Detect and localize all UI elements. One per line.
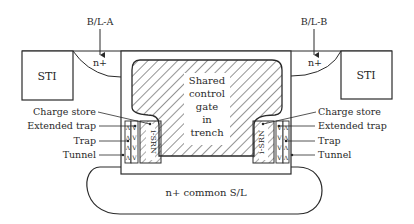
svg-text:Λ: Λ <box>125 124 131 131</box>
label-tunnel-right: Tunnel <box>318 149 351 160</box>
svg-text:V: V <box>131 144 137 151</box>
sti-left: STI <box>22 51 73 100</box>
bitline-b: B/L-B <box>301 16 328 55</box>
svg-text:Λ: Λ <box>125 154 131 161</box>
bitline-b-label: B/L-B <box>301 16 328 27</box>
nplus-left-label: n+ <box>93 57 107 68</box>
isrn-left-label: i-SRN <box>149 130 158 154</box>
svg-text:V: V <box>131 124 137 131</box>
common-sl-label: n+ common S/L <box>165 187 246 198</box>
svg-text:Λ: Λ <box>283 144 289 151</box>
label-charge-store-left: Charge store <box>33 106 96 117</box>
svg-text:Λ: Λ <box>283 154 289 161</box>
label-trap-left: Trap <box>73 135 96 146</box>
svg-text:Λ: Λ <box>125 144 131 151</box>
svg-text:V: V <box>276 124 282 131</box>
gate-label-line3: gate <box>196 101 218 112</box>
bitline-a: B/L-A <box>87 16 114 55</box>
label-extended-trap-left: Extended trap <box>27 120 96 131</box>
svg-text:Λ: Λ <box>125 134 131 141</box>
nplus-right-label: n+ <box>308 57 322 68</box>
gate-label-line5: trench <box>190 127 224 138</box>
svg-text:Λ: Λ <box>283 124 289 131</box>
label-charge-store-right: Charge store <box>318 106 381 117</box>
sti-right-label: STI <box>356 69 375 82</box>
label-extended-trap-right: Extended trap <box>318 120 387 131</box>
gate-label-line4: in <box>202 114 212 125</box>
isrn-right-label: i-SRN <box>257 130 266 154</box>
right-storage-stack: i-SRN V V V V Λ Λ Λ Λ <box>253 121 289 163</box>
svg-text:V: V <box>276 154 282 161</box>
left-storage-stack: Λ Λ Λ Λ V V V V i-SRN <box>125 121 161 163</box>
trench-memory-cell-diagram: STI STI n+ n+ B/L-A B/L-B n+ common S/L … <box>0 0 414 224</box>
svg-text:V: V <box>131 154 137 161</box>
gate-label: Shared <box>189 75 226 86</box>
svg-text:V: V <box>276 134 282 141</box>
nplus-right-region: n+ <box>291 51 341 76</box>
label-tunnel-left: Tunnel <box>63 149 96 160</box>
nplus-left-region: n+ <box>73 51 121 77</box>
sti-left-label: STI <box>37 70 56 83</box>
bitline-a-label: B/L-A <box>87 16 114 27</box>
gate-label-line2: control <box>189 88 225 99</box>
svg-text:V: V <box>131 134 137 141</box>
svg-text:Λ: Λ <box>283 134 289 141</box>
label-trap-right: Trap <box>318 135 341 146</box>
svg-text:V: V <box>276 144 282 151</box>
sti-right: STI <box>341 51 392 99</box>
